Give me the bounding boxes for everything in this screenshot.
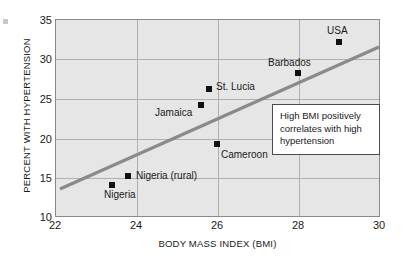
y-tick-label-20: 20: [12, 134, 52, 145]
x-tick-label-26: 26: [202, 220, 232, 231]
gridline-x-24: [137, 20, 138, 216]
scatter-chart-figure: 35 30 25 20 15 10 22 24 26 28 30 BODY MA…: [0, 0, 404, 272]
left-edge-artifact: [3, 19, 8, 24]
x-tick-label-30: 30: [364, 220, 394, 231]
x-tick-label-22: 22: [40, 220, 70, 231]
data-point-cameroon: [214, 141, 220, 147]
y-tick-label-15: 15: [12, 173, 52, 184]
data-label-usa: USA: [327, 26, 348, 36]
y-tick-label-35: 35: [12, 15, 52, 26]
data-point-nigeria-rural: [125, 173, 131, 179]
data-label-nigeria-rural: Nigeria (rural): [136, 171, 197, 181]
annotation-callout: High BMI positively correlates with high…: [272, 104, 380, 155]
gridline-x-26: [218, 20, 219, 216]
data-label-st-lucia: St. Lucia: [216, 82, 255, 92]
data-point-usa: [336, 39, 342, 45]
data-point-nigeria: [109, 182, 115, 188]
x-tick-label-24: 24: [121, 220, 151, 231]
data-label-barbados: Barbados: [268, 58, 311, 68]
data-point-barbados: [295, 70, 301, 76]
x-axis-title: BODY MASS INDEX (BMI): [55, 238, 380, 249]
data-label-cameroon: Cameroon: [221, 150, 268, 160]
y-axis-title: PERCENT WITH HYPERTENSION: [21, 26, 32, 206]
data-label-jamaica: Jamaica: [155, 108, 192, 118]
x-tick-label-28: 28: [283, 220, 313, 231]
y-tick-label-30: 30: [12, 54, 52, 65]
y-tick-label-25: 25: [12, 94, 52, 105]
data-point-jamaica: [198, 102, 204, 108]
data-label-nigeria: Nigeria: [104, 190, 136, 200]
data-point-st-lucia: [206, 86, 212, 92]
